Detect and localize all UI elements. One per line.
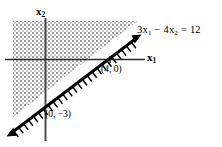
equation-label: 3x1 − 4x2 = 12 [137, 25, 201, 36]
point-label-x-intercept: (4, 0) [101, 65, 122, 75]
point-label-y-intercept: (0, −3) [45, 110, 71, 120]
inequality-graph-figure: x2 x1 3x1 − 4x2 = 12 (4, 0) (0, −3) [0, 0, 222, 147]
axis-label-x1: x1 [147, 52, 156, 63]
axis-label-x2: x2 [36, 6, 45, 17]
